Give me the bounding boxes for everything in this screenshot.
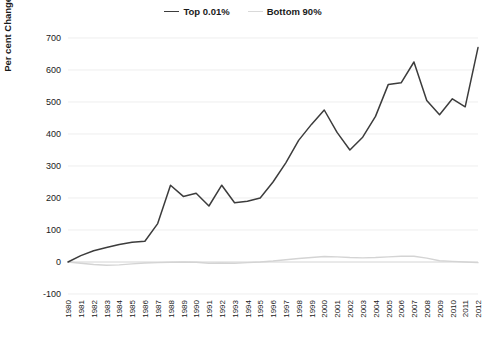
x-tick-label: 1984 — [115, 299, 124, 317]
x-tick-label: 2007 — [410, 299, 419, 317]
x-tick-label: 1995 — [256, 299, 265, 317]
x-tick-label: 1983 — [103, 299, 112, 317]
x-tick-label: 2004 — [372, 299, 381, 317]
chart-container: Top 0.01% Bottom 90% Per cent Change sin… — [0, 0, 486, 343]
y-tick-label: 500 — [46, 97, 61, 107]
x-tick-label: 1996 — [269, 299, 278, 317]
x-tick-label: 2002 — [346, 299, 355, 317]
y-tick-label: 300 — [46, 161, 61, 171]
x-tick-label: 2011 — [461, 299, 470, 317]
x-tick-label: 2003 — [359, 299, 368, 317]
y-tick-label: 0 — [56, 257, 61, 267]
x-tick-label: 1989 — [180, 299, 189, 317]
x-tick-label: 1991 — [205, 299, 214, 317]
x-tick-label: 2009 — [436, 299, 445, 317]
x-tick-label: 1994 — [244, 299, 253, 317]
y-tick-label: 700 — [46, 33, 61, 43]
x-tick-label: 1999 — [308, 299, 317, 317]
y-tick-label: 200 — [46, 193, 61, 203]
x-tick-label: 1985 — [128, 299, 137, 317]
x-tick-label: 1987 — [154, 299, 163, 317]
x-tick-label: 1982 — [90, 299, 99, 317]
data-series — [68, 48, 478, 266]
x-tick-label: 1992 — [218, 299, 227, 317]
gridlines — [68, 38, 478, 294]
x-tick-label: 1998 — [295, 299, 304, 317]
x-tick-label: 2005 — [385, 299, 394, 317]
x-tick-label: 2000 — [320, 299, 329, 317]
x-axis-ticks: 1980198119821983198419851986198719881989… — [64, 299, 483, 317]
y-tick-label: 400 — [46, 129, 61, 139]
y-tick-label: -100 — [43, 289, 61, 299]
x-tick-label: 1988 — [167, 299, 176, 317]
x-tick-label: 2012 — [474, 299, 483, 317]
x-tick-label: 2001 — [333, 299, 342, 317]
x-tick-label: 1980 — [64, 299, 73, 317]
x-tick-label: 2008 — [423, 299, 432, 317]
chart-plot: -1000100200300400500600700 1980198119821… — [0, 0, 486, 343]
x-tick-label: 1993 — [231, 299, 240, 317]
x-tick-label: 1990 — [192, 299, 201, 317]
x-tick-label: 1981 — [77, 299, 86, 317]
x-tick-label: 2010 — [449, 299, 458, 317]
x-tick-label: 1997 — [282, 299, 291, 317]
y-tick-label: 600 — [46, 65, 61, 75]
y-axis-ticks: -1000100200300400500600700 — [43, 33, 61, 299]
x-tick-label: 2006 — [397, 299, 406, 317]
x-tick-label: 1986 — [141, 299, 150, 317]
y-tick-label: 100 — [46, 225, 61, 235]
series-line-bottom — [68, 256, 478, 265]
